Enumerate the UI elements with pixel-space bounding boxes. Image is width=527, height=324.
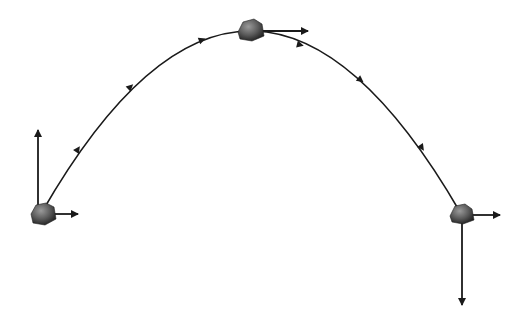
rock-icon: [238, 19, 264, 41]
apex-object: [238, 19, 308, 41]
rock-icon: [450, 204, 474, 224]
rock-icon: [31, 203, 56, 225]
landing-object: [450, 204, 500, 305]
launch-object: [31, 130, 78, 225]
projectile-diagram: [0, 0, 527, 324]
diagram-canvas: [0, 0, 527, 324]
trajectory-path: [42, 31, 460, 212]
